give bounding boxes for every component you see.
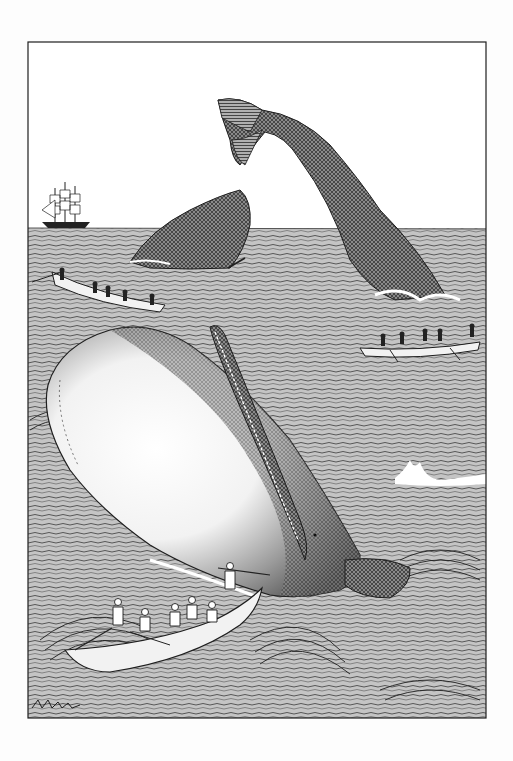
whaling-illustration xyxy=(0,0,513,761)
